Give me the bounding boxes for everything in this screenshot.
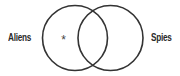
asterisk-marker: *: [61, 33, 66, 47]
spies-circle: [78, 6, 143, 71]
aliens-label: Aliens: [8, 31, 31, 45]
aliens-circle: [43, 6, 108, 71]
spies-label: Spies: [151, 31, 172, 45]
